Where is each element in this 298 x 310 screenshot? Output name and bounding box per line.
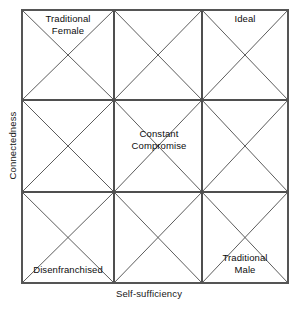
x-axis-label: Self-sufficiency (0, 288, 298, 299)
label-traditional-female: Traditional Female (24, 13, 112, 36)
label-disenfranchised: Disenfranchised (20, 264, 116, 276)
label-constant-compromise: Constant Compromise (116, 128, 202, 151)
label-ideal: Ideal (204, 13, 286, 25)
y-axis-label: Connectedness (7, 76, 18, 216)
label-traditional-male: Traditional Male (202, 252, 288, 275)
diagram-canvas: Traditional Female Ideal Constant Compro… (0, 0, 298, 310)
